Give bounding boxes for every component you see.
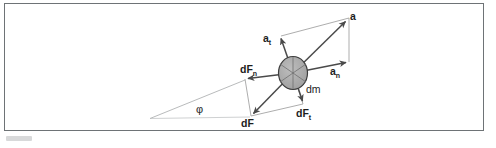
construction-line-df-left xyxy=(245,79,251,116)
label-vector-df-n: dFn xyxy=(240,64,257,77)
scan-artifact-smudge xyxy=(6,136,32,141)
label-vector-a: a xyxy=(350,11,356,22)
label-mass-element-dm: dm xyxy=(306,84,321,95)
label-vector-df: dF xyxy=(241,118,254,129)
figure-root: a at an dFn dF dFt dm φ xyxy=(0,0,496,148)
construction-line-a-top xyxy=(281,18,349,36)
horizontal-reference-line xyxy=(150,117,250,119)
label-vector-a-t: at xyxy=(263,33,271,46)
label-vector-df-t: dFt xyxy=(296,108,311,121)
label-vector-a-n: an xyxy=(330,66,340,79)
label-angle-phi: φ xyxy=(196,104,203,115)
